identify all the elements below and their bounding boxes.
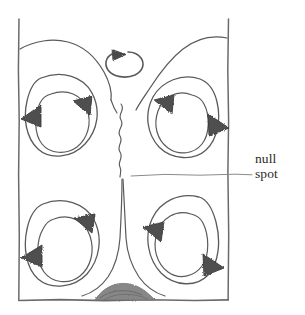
- null-spot-annotation: null spot: [255, 151, 278, 181]
- figure-root: null spot: [0, 0, 305, 315]
- null-spot-label-line1: null: [255, 151, 278, 166]
- null-spot-label-line2: spot: [255, 166, 278, 181]
- frame-left-wall: [18, 19, 19, 300]
- frame-right-wall: [228, 19, 229, 300]
